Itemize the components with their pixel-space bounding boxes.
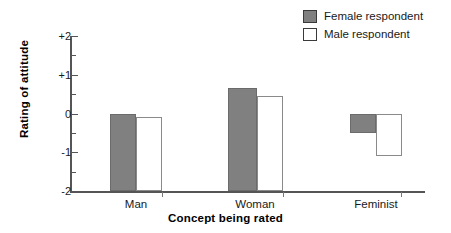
bar-woman-male — [257, 96, 283, 191]
bar-woman-female — [228, 88, 257, 191]
x-tick-2 — [283, 192, 284, 197]
y-tick-major-0 — [71, 114, 78, 115]
y-tick-label-2: +2 — [45, 31, 71, 41]
y-tick-label-0: 0 — [45, 109, 71, 119]
y-tick-major-1 — [71, 75, 78, 76]
y-tick-label-1: +1 — [45, 70, 71, 80]
plot-area: +2 +1 0 -1 -2 Man Woman Feminist — [70, 30, 425, 195]
legend-item-female: Female respondent — [303, 7, 449, 25]
y-tick-major-neg2 — [71, 191, 78, 192]
bar-chart: Female respondent Male respondent Rating… — [0, 0, 451, 233]
y-tick-major-neg1 — [71, 152, 78, 153]
x-tick-3 — [401, 192, 402, 197]
bar-man-female — [110, 114, 136, 192]
x-axis-title: Concept being rated — [0, 212, 451, 224]
legend-label-female: Female respondent — [324, 10, 423, 23]
x-category-woman: Woman — [215, 198, 295, 210]
y-tick-minor-neg0p5 — [71, 133, 76, 134]
y-axis-title: Rating of attitude — [18, 24, 30, 154]
y-tick-major-2 — [71, 36, 78, 37]
x-category-feminist: Feminist — [336, 198, 416, 210]
x-tick-1 — [162, 192, 163, 197]
y-tick-label-neg2: -2 — [45, 186, 71, 196]
y-tick-minor-neg1p5 — [71, 172, 76, 173]
female-swatch-icon — [303, 10, 317, 23]
y-tick-minor-1p5 — [71, 55, 76, 56]
bar-man-male — [136, 117, 162, 191]
x-category-man: Man — [96, 198, 176, 210]
bar-feminist-male — [376, 114, 402, 157]
x-axis-line — [70, 191, 425, 193]
y-tick-minor-0p5 — [71, 94, 76, 95]
bar-feminist-female — [350, 114, 376, 133]
y-tick-label-neg1: -1 — [45, 147, 71, 157]
